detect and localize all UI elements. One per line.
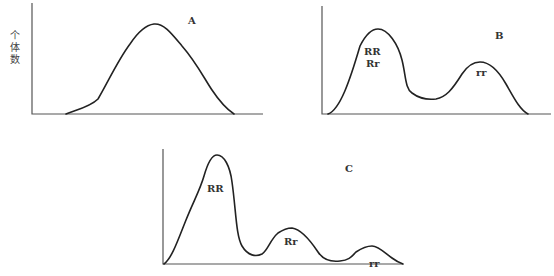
chart-b-curve bbox=[328, 29, 528, 114]
chart-b-label: B bbox=[495, 30, 503, 41]
chart-c-label: C bbox=[345, 163, 353, 174]
chart-b-label-rr-recessive: rr bbox=[476, 67, 487, 78]
distribution-diagrams: A RR Rr rr B RR Rr rr C bbox=[0, 0, 554, 276]
chart-b-label-rr-dominant: RR bbox=[364, 46, 381, 57]
chart-c-label-rr-hetero: Rr bbox=[284, 236, 298, 247]
chart-c-label-rr-dominant: RR bbox=[207, 183, 224, 194]
chart-b: RR Rr rr B bbox=[322, 6, 551, 114]
chart-a-curve bbox=[66, 24, 234, 114]
chart-c-label-rr-recessive: rr bbox=[369, 258, 380, 269]
chart-a: A bbox=[32, 3, 263, 114]
chart-c: RR Rr rr C bbox=[163, 149, 403, 269]
chart-c-curve bbox=[164, 155, 403, 264]
chart-b-label-rr-hetero: Rr bbox=[366, 58, 380, 69]
chart-a-label: A bbox=[187, 15, 196, 26]
chart-a-axes bbox=[32, 3, 263, 114]
